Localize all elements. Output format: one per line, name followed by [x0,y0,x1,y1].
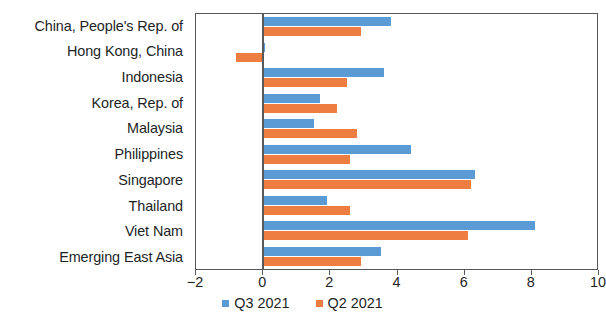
bar-row [196,91,597,117]
legend-label: Q2 2021 [328,296,383,310]
bar-q2-2021 [263,78,347,87]
bar-q2-2021 [263,155,350,164]
bar-row [196,40,597,66]
legend-item: Q2 2021 [316,296,383,310]
plot-area [195,13,598,270]
bar-row [196,193,597,219]
x-axis-tick-label: 10 [590,274,606,291]
legend-swatch-icon [222,300,229,307]
x-axis-tick-label: −2 [187,274,203,291]
x-axis-tick-label: 4 [392,274,400,291]
legend-label: Q3 2021 [234,296,289,310]
bar-q2-2021 [263,206,350,215]
bar-q3-2021 [263,145,411,154]
bar-q3-2021 [263,119,313,128]
category-label: Thailand [0,193,189,219]
bar-row [196,65,597,91]
bar-q2-2021 [263,231,468,240]
bar-row [196,14,597,40]
category-label: China, People's Rep. of [0,13,189,39]
bar-row [196,244,597,270]
category-label: Viet Nam [0,219,189,245]
bar-q3-2021 [263,221,535,230]
legend-item: Q3 2021 [222,296,289,310]
bar-row [196,116,597,142]
x-axis-tick-label: 0 [258,274,266,291]
category-label: Singapore [0,167,189,193]
bar-q2-2021 [263,27,360,36]
category-axis-labels: China, People's Rep. ofHong Kong, ChinaI… [0,13,189,270]
category-label: Malaysia [0,116,189,142]
category-label: Indonesia [0,64,189,90]
category-label: Philippines [0,142,189,168]
bar-q3-2021 [263,17,391,26]
chart-legend: Q3 2021Q2 2021 [0,296,605,310]
bar-row [196,142,597,168]
legend-swatch-icon [316,300,323,307]
bar-q2-2021 [263,129,357,138]
x-axis-tick-label: 8 [527,274,535,291]
bar-q3-2021 [263,170,475,179]
x-axis-tick-label: 6 [460,274,468,291]
zero-axis-line [262,14,263,269]
bar-row [196,167,597,193]
bar-q2-2021 [236,53,263,62]
category-label: Emerging East Asia [0,244,189,270]
bar-rows [196,14,597,269]
bar-q2-2021 [263,180,471,189]
category-label: Hong Kong, China [0,39,189,65]
bar-q2-2021 [263,104,337,113]
bar-q2-2021 [263,257,360,266]
bar-q3-2021 [263,196,327,205]
category-label: Korea, Rep. of [0,90,189,116]
bar-row [196,218,597,244]
x-axis-tick-label: 2 [325,274,333,291]
bar-q3-2021 [263,68,384,77]
bar-q3-2021 [263,247,381,256]
bar-q3-2021 [263,94,320,103]
x-axis-tick-labels: −20246810 [195,274,598,294]
